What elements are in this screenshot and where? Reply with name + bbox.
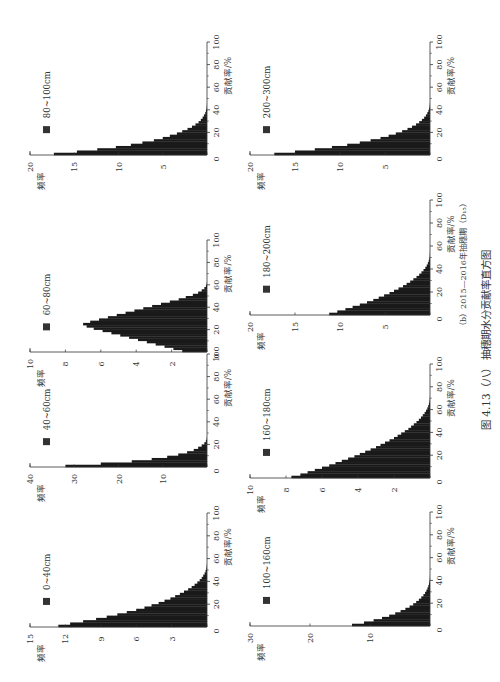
histogram-bar	[202, 289, 207, 292]
histogram-panel: 204060801000贡献率/%246810频率60~80cm	[26, 232, 233, 387]
frequency-tick-label: 10	[26, 359, 35, 369]
frequency-axis-label: 频率	[256, 172, 266, 190]
histogram-bar	[385, 442, 430, 445]
legend-label: 160~180cm	[262, 389, 272, 441]
frequency-tick-label: 30	[70, 474, 79, 484]
histogram-bar	[371, 448, 430, 451]
rate-axis-label: 贡献率/%	[223, 255, 233, 293]
histogram-bar	[192, 126, 207, 129]
rate-tick-label: 80	[435, 382, 444, 392]
histogram-bar	[410, 605, 430, 608]
histogram-bar	[381, 137, 431, 140]
histogram-bar	[417, 276, 431, 279]
histogram-bar	[308, 471, 430, 474]
histogram-bar	[407, 283, 430, 286]
histogram-bar	[427, 264, 430, 267]
histogram-bar	[416, 123, 430, 126]
rate-tick-label: 100	[212, 346, 221, 361]
histogram-bar	[426, 410, 430, 413]
histogram-bar	[204, 114, 207, 117]
frequency-tick-label: 10	[246, 485, 255, 495]
histogram-bar	[143, 307, 207, 310]
frequency-tick-label: 12	[61, 634, 70, 644]
histogram-bar	[315, 469, 430, 472]
histogram-bar	[336, 462, 431, 465]
histogram-bar	[179, 298, 207, 301]
histogram-bar	[144, 606, 207, 609]
histogram-bar	[99, 318, 207, 321]
histogram-bar	[408, 428, 430, 431]
histogram-bar	[413, 278, 430, 281]
histogram-bar	[117, 613, 207, 616]
histogram-bar	[152, 458, 207, 461]
histogram-bar	[337, 310, 430, 313]
legend-swatch	[43, 598, 50, 605]
frequency-tick-label: 20	[115, 474, 124, 484]
histogram-bar	[180, 593, 207, 596]
frequency-tick-label: 15	[291, 162, 300, 172]
legend-swatch	[263, 597, 270, 604]
histogram-bar	[345, 308, 430, 311]
legend-label: 80~100cm	[42, 71, 52, 118]
rate-axis-label: 贡献率/%	[223, 369, 233, 407]
frequency-tick-label: 6	[97, 361, 106, 366]
frequency-axis-label: 频率	[256, 495, 266, 513]
frequency-tick-label: 10	[336, 322, 345, 332]
frequency-tick-label: 10	[159, 474, 168, 484]
histogram-panel: 204060801000贡献率/%102030频率100~160cm	[246, 504, 456, 661]
histogram-bar	[367, 301, 430, 304]
histogram-bar	[178, 453, 207, 456]
histogram-bar	[411, 426, 430, 429]
histogram-bar	[201, 119, 207, 122]
rate-tick-label: 20	[212, 599, 221, 609]
rate-tick-label: 100	[435, 34, 444, 49]
histogram-bar	[170, 135, 207, 138]
histogram-bar	[425, 267, 430, 270]
histogram-bar	[365, 451, 430, 454]
rate-tick-label: 60	[435, 241, 444, 251]
histogram-bar	[322, 467, 430, 470]
histogram-bar	[154, 139, 207, 142]
histogram-bar	[419, 419, 430, 422]
rate-tick-label: 20	[435, 127, 444, 137]
histogram-bar	[170, 300, 207, 303]
rate-tick-label: 40	[435, 264, 444, 274]
histogram-bar	[126, 312, 207, 315]
frequency-axis-label: 频率	[256, 643, 266, 661]
legend-label: 200~300cm	[262, 66, 272, 118]
histogram-bar	[167, 456, 207, 459]
legend-label: 0~40cm	[42, 554, 52, 590]
histogram-bar	[131, 144, 207, 147]
zero-label: 0	[435, 316, 444, 321]
histogram-bar	[184, 591, 207, 594]
histogram-bar	[389, 615, 430, 618]
rate-tick-label: 100	[212, 505, 221, 520]
histogram-bar	[425, 592, 430, 595]
histogram-bar	[427, 407, 430, 410]
rate-axis-label: 贡献率/%	[223, 57, 233, 95]
histogram-bar	[77, 150, 207, 153]
histogram-bar	[419, 121, 430, 124]
figure-page: 204060801000贡献率/%5101520频率80~100cm204060…	[0, 0, 500, 682]
histogram-bar	[161, 303, 207, 306]
histogram-bar	[187, 451, 207, 454]
histogram-bar	[402, 130, 430, 133]
histogram-bar	[200, 579, 207, 582]
histogram-bar	[376, 446, 430, 449]
histogram-bar	[194, 449, 207, 452]
histogram-bar	[419, 274, 430, 277]
histogram-bar	[427, 112, 430, 115]
histogram-bar	[203, 117, 207, 120]
histogram-bar	[87, 325, 207, 328]
histogram-bar	[371, 139, 430, 142]
zero-label: 0	[435, 156, 444, 161]
rate-axis-label: 贡献率/%	[446, 379, 456, 417]
histogram-bar	[116, 146, 207, 149]
zero-label: 0	[435, 479, 444, 484]
histogram-bar	[177, 132, 207, 135]
rate-tick-label: 40	[212, 105, 221, 115]
figure-subcaption: （b）2015—2016年抽穗期（D₁₅）	[457, 199, 468, 330]
histogram-bar	[165, 345, 207, 348]
histogram-bar	[374, 619, 430, 622]
histogram-bar	[401, 432, 430, 435]
